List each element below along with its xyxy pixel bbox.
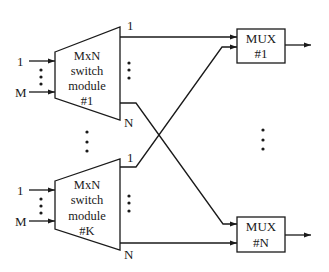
module-k-output-last-label: N	[124, 247, 134, 262]
ellipsis-dot	[39, 82, 42, 85]
ellipsis-dot	[127, 76, 130, 79]
module-k-input-last-label: M	[15, 214, 27, 229]
switch-module-k: MxN switch module #K 1 M 1 N	[15, 150, 134, 262]
module-1-input-last-label: M	[15, 85, 27, 100]
module-1-input-first-label: 1	[17, 54, 24, 69]
module-k-input-first-label: 1	[17, 183, 24, 198]
ellipsis-dot	[39, 68, 42, 71]
ellipsis-dot	[39, 75, 42, 78]
switch-module-1: MxN switch module #1 1 M 1 N	[15, 18, 134, 130]
ellipsis-dot	[39, 197, 42, 200]
ellipsis-dot	[261, 138, 264, 141]
ellipsis-dot	[39, 204, 42, 207]
mux-n: MUX #N	[237, 217, 311, 252]
mux-n-label-line1: MUX	[246, 219, 277, 234]
module-k-label-line4: #K	[79, 224, 94, 238]
module-1-label-line2: switch	[71, 64, 104, 78]
ellipsis-dot	[127, 61, 130, 64]
mux-1-label-line2: #1	[255, 46, 268, 61]
ellipsis-dot	[85, 149, 88, 152]
module-k-label-line2: switch	[71, 193, 104, 207]
module-1-label-line4: #1	[81, 94, 94, 108]
ellipsis-dot	[127, 209, 130, 212]
mux-1: MUX #1	[237, 29, 311, 63]
wire-module1-outN-to-muxN	[120, 103, 237, 224]
module-k-label-line1: MxN	[74, 178, 100, 192]
ellipsis-dot	[127, 68, 130, 71]
ellipsis-dot	[85, 140, 88, 143]
module-1-output-first-label: 1	[127, 18, 134, 33]
switch-mux-diagram: MxN switch module #1 1 M 1 N MxN switch …	[0, 0, 329, 272]
ellipsis-dot	[85, 130, 88, 133]
connections	[120, 37, 237, 243]
module-ellipsis	[85, 130, 88, 152]
module-k-label-line3: module	[68, 209, 106, 223]
mux-n-label-line2: #N	[253, 235, 270, 250]
ellipsis-dot	[127, 194, 130, 197]
mux-ellipsis	[261, 128, 264, 150]
ellipsis-dot	[127, 201, 130, 204]
wire-moduleK-out1-to-mux1	[120, 47, 237, 167]
ellipsis-dot	[261, 128, 264, 131]
ellipsis-dot	[261, 147, 264, 150]
mux-1-label-line1: MUX	[246, 31, 277, 46]
module-1-output-last-label: N	[124, 115, 134, 130]
module-k-output-first-label: 1	[127, 150, 134, 165]
module-1-label-line3: module	[68, 79, 106, 93]
module-1-label-line1: MxN	[74, 49, 100, 63]
ellipsis-dot	[39, 211, 42, 214]
